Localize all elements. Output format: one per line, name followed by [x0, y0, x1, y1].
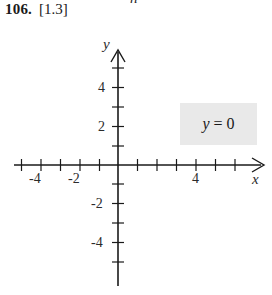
equation-value: 0 — [227, 115, 235, 132]
y-tick-label-2: 2 — [98, 120, 105, 134]
x-tick-label--4: -4 — [29, 172, 41, 186]
equation-text: y = 0 — [202, 115, 234, 133]
axes-svg — [0, 0, 272, 295]
x-tick-label--2: -2 — [68, 172, 80, 186]
coordinate-plane: y x -4 -2 4 4 2 -2 -4 y = 0 — [0, 0, 272, 295]
equation-variable: y — [202, 115, 209, 132]
y-tick-label--2: -2 — [91, 197, 103, 211]
figure-container: 106.[1.3] n — [0, 0, 272, 295]
y-tick-label--4: -4 — [91, 236, 103, 250]
equation-annotation-box: y = 0 — [180, 103, 257, 145]
x-axis-label: x — [252, 172, 259, 187]
x-tick-label-4: 4 — [192, 172, 199, 186]
y-tick-label-4: 4 — [98, 81, 105, 95]
y-axis-label: y — [103, 37, 110, 52]
equation-relation: = — [210, 115, 227, 132]
